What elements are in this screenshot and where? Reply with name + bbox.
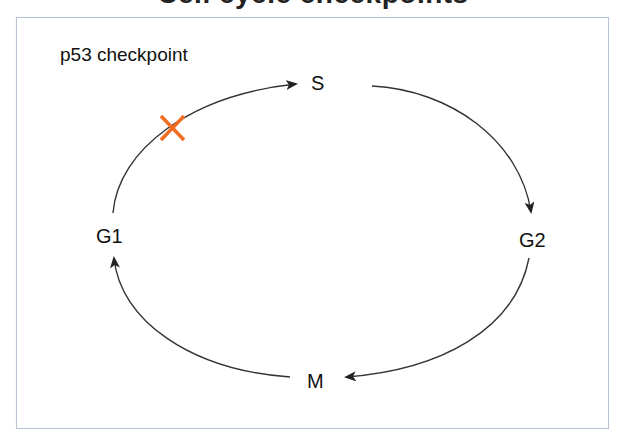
- arrow-g2-to-m: [346, 258, 529, 377]
- phase-g1-label: G1: [96, 226, 123, 246]
- phase-s-label: S: [311, 73, 324, 93]
- arrow-m-to-g1: [114, 258, 290, 377]
- arrow-s-to-g2: [372, 86, 531, 212]
- x-mark-icon: [161, 116, 184, 140]
- phase-g2-label: G2: [519, 230, 546, 250]
- p53-checkpoint-label: p53 checkpoint: [60, 45, 188, 65]
- phase-m-label: M: [307, 371, 324, 391]
- arrow-g1-to-s: [113, 84, 296, 213]
